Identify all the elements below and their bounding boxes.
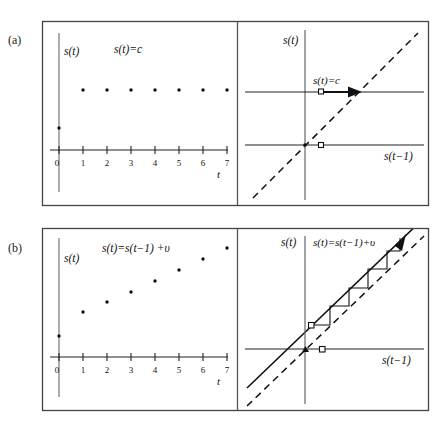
b-ts-xtick-5: 5	[177, 365, 182, 375]
a-ts-equation: s(t)=c	[114, 43, 142, 56]
data-point	[105, 300, 108, 303]
b-pp-cobweb	[311, 238, 400, 325]
a-ts-xlabel: t	[217, 168, 221, 180]
panel-a-border	[43, 22, 429, 206]
figure-canvas: 0 1 2 3 4 5 6 7 s(t) t s(t)=c	[0, 0, 446, 429]
data-point	[57, 126, 60, 129]
a-pp-start-marker	[319, 89, 324, 94]
data-point	[177, 88, 180, 91]
b-ts-xlabel: t	[217, 375, 221, 387]
b-ts-xtick-0: 0	[55, 365, 60, 375]
data-point	[201, 257, 204, 260]
a-ts-ylabel: s(t)	[64, 45, 80, 58]
data-point	[105, 88, 108, 91]
data-point	[225, 88, 228, 91]
b-pp-start-marker	[309, 323, 315, 329]
data-point	[201, 88, 204, 91]
data-point	[129, 88, 132, 91]
b-pp-identity-line	[247, 236, 424, 406]
data-point	[153, 88, 156, 91]
b-ts-xtick-3: 3	[129, 365, 134, 375]
b-ts-ylabel: s(t)	[64, 252, 80, 265]
b-pp-xlabel: s(t−1)	[382, 354, 411, 367]
a-pp-identity-line	[253, 33, 418, 198]
a-ts-xtick-2: 2	[105, 158, 110, 168]
b-ts-xtick-7: 7	[225, 365, 230, 375]
a-ts-xtick-5: 5	[177, 158, 182, 168]
figure-root: (a) (b) 0 1 2 3	[0, 0, 446, 429]
panel-a-timeseries: 0 1 2 3 4 5 6 7 s(t) t s(t)=c	[50, 33, 230, 192]
a-ts-xtick-7: 7	[225, 158, 230, 168]
b-ts-equation: s(t)=s(t−1) +υ	[102, 242, 170, 255]
b-pp-axis-marker	[320, 347, 326, 353]
a-ts-points	[57, 88, 228, 129]
b-ts-xtick-4: 4	[153, 365, 158, 375]
a-pp-origin-point	[303, 143, 307, 147]
data-point	[57, 334, 60, 337]
data-point	[81, 310, 84, 313]
data-point	[177, 268, 180, 271]
a-pp-equation: s(t)=c	[313, 74, 340, 87]
data-point	[81, 88, 84, 91]
b-ts-xtick-2: 2	[105, 365, 110, 375]
a-pp-axis-marker	[319, 143, 324, 148]
a-ts-xtick-3: 3	[129, 158, 134, 168]
data-point	[225, 246, 228, 249]
panel-a-phaseplot: s(t) s(t−1) s(t)=c	[245, 30, 424, 200]
b-ts-points	[57, 246, 228, 337]
b-ts-xtick-6: 6	[201, 365, 206, 375]
a-ts-xtick-4: 4	[153, 158, 158, 168]
a-ts-xtick-6: 6	[201, 158, 206, 168]
b-pp-arrowhead-icon	[395, 234, 406, 251]
a-ts-xtick-0: 0	[55, 158, 60, 168]
panel-b-timeseries: 0 1 2 3 4 5 6 7 s(t) t s(t)=s(t−1) +υ	[50, 238, 230, 397]
a-pp-xlabel: s(t−1)	[384, 150, 413, 163]
b-ts-xtick-1: 1	[81, 365, 86, 375]
a-pp-ylabel: s(t)	[283, 34, 299, 47]
panel-b-border	[43, 229, 429, 411]
a-ts-xtick-1: 1	[81, 158, 86, 168]
b-pp-equation: s(t)=s(t−1)+υ	[313, 236, 375, 249]
panel-b-phaseplot: s(t) s(t−1) s(t)=s(t−1)+υ	[245, 218, 424, 406]
data-point	[129, 290, 132, 293]
data-point	[153, 279, 156, 282]
b-pp-ylabel: s(t)	[281, 236, 297, 249]
